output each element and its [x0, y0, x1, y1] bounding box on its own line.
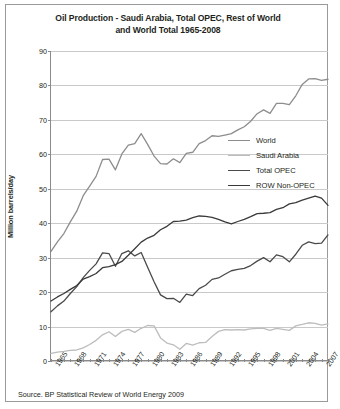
series-line [51, 196, 328, 301]
y-axis-tick-label: 50 [39, 184, 47, 193]
y-axis-tick-label: 70 [39, 115, 47, 124]
y-axis-tick-label: 40 [39, 219, 47, 228]
legend-swatch [228, 170, 250, 171]
legend-item: Total OPEC [228, 163, 315, 178]
x-axis-tick-mark [302, 359, 303, 362]
chart-legend: WorldSaudi ArabiaTotal OPECROW Non-OPEC [228, 133, 315, 193]
x-axis-tick-mark [90, 359, 91, 362]
legend-label: World [256, 136, 276, 145]
y-axis-tick-label: 90 [39, 47, 47, 56]
series-line [51, 323, 328, 354]
chart-title-line-2: and World Total 1965-2008 [18, 24, 318, 36]
legend-label: Total OPEC [256, 166, 296, 175]
y-axis-tick-label: 80 [39, 81, 47, 90]
x-axis-tick-mark [186, 359, 187, 362]
x-axis-tick-mark [167, 359, 168, 362]
x-axis-tick-mark [322, 359, 323, 362]
chart-frame: Oil Production - Saudi Arabia, Total OPE… [5, 4, 328, 402]
chart-title-line-1: Oil Production - Saudi Arabia, Total OPE… [18, 12, 318, 24]
plot-area: 0102030405060708090 [51, 51, 328, 361]
y-axis-label: Million barrels/day [4, 51, 16, 361]
legend-label: Saudi Arabia [256, 151, 299, 160]
legend-label: ROW Non-OPEC [256, 181, 315, 190]
legend-swatch [228, 155, 250, 156]
y-axis-tick-label: 60 [39, 150, 47, 159]
x-axis-tick-mark [70, 359, 71, 362]
x-axis-tick-mark [206, 359, 207, 362]
x-axis-tick-mark [109, 359, 110, 362]
source-note: Source. BP Statistical Review of World E… [18, 390, 184, 399]
legend-swatch [228, 185, 250, 186]
x-axis-tick-mark [244, 359, 245, 362]
y-axis-tick-label: 20 [39, 288, 47, 297]
x-axis-tick-mark [283, 359, 284, 362]
series-line [51, 235, 328, 312]
x-axis-tick-mark [225, 359, 226, 362]
x-axis-tick-mark [264, 359, 265, 362]
legend-item: Saudi Arabia [228, 148, 315, 163]
y-axis-tick-label: 10 [39, 322, 47, 331]
x-axis-tick-mark [148, 359, 149, 362]
y-axis-tick-label: 30 [39, 253, 47, 262]
legend-item: ROW Non-OPEC [228, 178, 315, 193]
chart-title: Oil Production - Saudi Arabia, Total OPE… [18, 12, 318, 36]
legend-item: World [228, 133, 315, 148]
x-axis-tick-mark [51, 359, 52, 362]
data-lines [51, 51, 328, 361]
y-axis-tick-label: 0 [43, 357, 47, 366]
x-axis-tick-mark [128, 359, 129, 362]
legend-swatch [228, 140, 250, 141]
